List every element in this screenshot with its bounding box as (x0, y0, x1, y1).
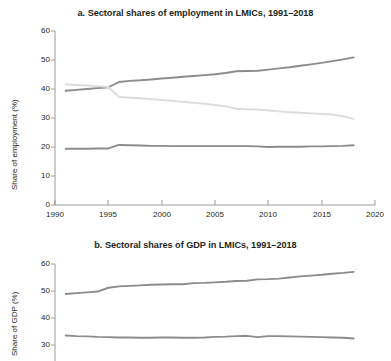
panel-b-series-lines (66, 272, 354, 339)
series-line-services (66, 57, 354, 90)
series-line-industry (66, 336, 354, 339)
chart-panel-a: a. Sectoral shares of employment in LMIC… (0, 0, 391, 232)
series-line-industry (66, 145, 354, 149)
panel-a-x-ticks (55, 200, 375, 205)
figure-container: a. Sectoral shares of employment in LMIC… (0, 0, 391, 361)
panel-a-plot-area (0, 0, 391, 232)
series-line-agriculture (66, 84, 354, 119)
chart-panel-b: b. Sectoral shares of GDP in LMICs, 1991… (0, 232, 391, 361)
panel-b-plot-area (0, 232, 391, 361)
series-line-services (66, 272, 354, 294)
panel-a-series-lines (66, 57, 354, 148)
panel-a-y-ticks (51, 31, 55, 205)
panel-b-y-ticks (51, 264, 55, 345)
